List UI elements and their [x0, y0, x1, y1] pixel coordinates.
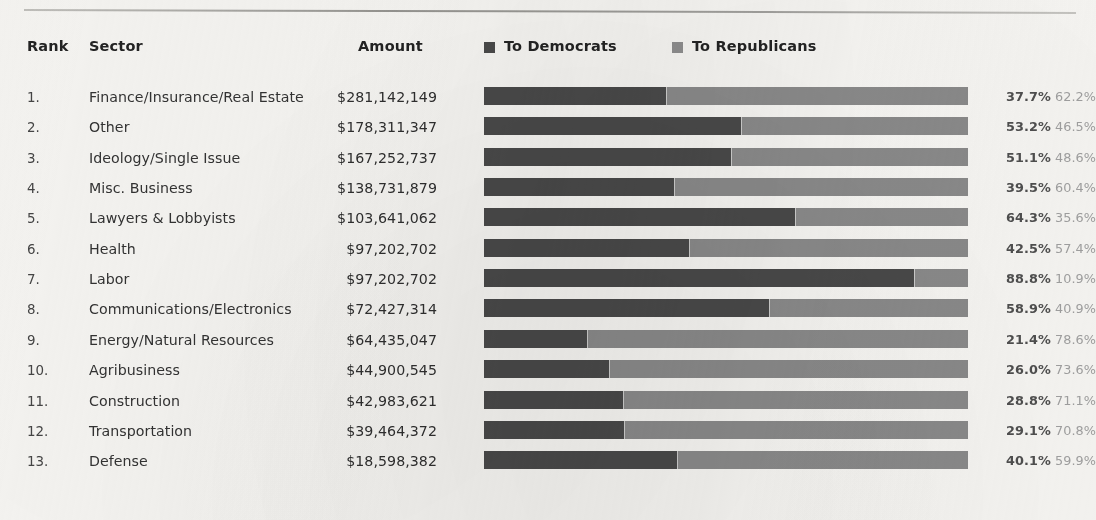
percent-republicans: 78.6%: [1055, 332, 1096, 347]
percent-democrats: 40.1%: [1006, 453, 1051, 468]
percent-democrats: 42.5%: [1006, 241, 1051, 256]
bar-segment-democrats: [484, 148, 732, 166]
bar-segment-democrats: [484, 178, 675, 196]
cell-amount: $44,900,545: [282, 362, 437, 378]
percent-republicans: 46.5%: [1055, 119, 1096, 134]
bar-segment-democrats: [484, 299, 770, 317]
stacked-bar: [484, 117, 968, 135]
percent-labels: 39.5%60.4%: [1006, 180, 1096, 195]
table-row: 4.Misc. Business$138,731,87939.5%60.4%: [0, 177, 1096, 203]
stacked-bar: [484, 391, 968, 409]
percent-republicans: 57.4%: [1055, 241, 1096, 256]
bar-segment-republicans: [625, 421, 968, 439]
cell-sector: Lawyers & Lobbyists: [89, 210, 236, 226]
cell-rank: 1.: [27, 90, 40, 105]
cell-sector: Other: [89, 119, 130, 135]
cell-rank: 10.: [27, 363, 48, 378]
cell-rank: 7.: [27, 272, 40, 287]
bar-segment-democrats: [484, 208, 796, 226]
cell-sector: Labor: [89, 271, 129, 287]
cell-rank: 8.: [27, 302, 40, 317]
cell-amount: $42,983,621: [282, 393, 437, 409]
bar-segment-republicans: [610, 360, 968, 378]
cell-rank: 5.: [27, 211, 40, 226]
cell-amount: $138,731,879: [282, 180, 437, 196]
percent-democrats: 39.5%: [1006, 180, 1051, 195]
table-row: 8.Communications/Electronics$72,427,3145…: [0, 298, 1096, 324]
percent-labels: 53.2%46.5%: [1006, 119, 1096, 134]
bar-segment-democrats: [484, 421, 625, 439]
percent-republicans: 59.9%: [1055, 453, 1096, 468]
percent-labels: 58.9%40.9%: [1006, 301, 1096, 316]
percent-democrats: 26.0%: [1006, 362, 1051, 377]
percent-labels: 21.4%78.6%: [1006, 332, 1096, 347]
percent-democrats: 58.9%: [1006, 301, 1051, 316]
stacked-bar: [484, 421, 968, 439]
cell-sector: Ideology/Single Issue: [89, 150, 240, 166]
cell-amount: $281,142,149: [282, 89, 437, 105]
percent-labels: 28.8%71.1%: [1006, 393, 1096, 408]
percent-democrats: 53.2%: [1006, 119, 1051, 134]
table-row: 2.Other$178,311,34753.2%46.5%: [0, 116, 1096, 142]
cell-sector: Energy/Natural Resources: [89, 332, 274, 348]
bar-segment-democrats: [484, 391, 624, 409]
cell-rank: 3.: [27, 151, 40, 166]
percent-republicans: 62.2%: [1055, 89, 1096, 104]
cell-rank: 11.: [27, 394, 48, 409]
table-row: 7.Labor$97,202,70288.8%10.9%: [0, 268, 1096, 294]
percent-labels: 51.1%48.6%: [1006, 150, 1096, 165]
cell-sector: Communications/Electronics: [89, 301, 292, 317]
percent-republicans: 70.8%: [1055, 423, 1096, 438]
percent-democrats: 64.3%: [1006, 210, 1051, 225]
percent-democrats: 29.1%: [1006, 423, 1051, 438]
bar-segment-republicans: [742, 117, 968, 135]
stacked-bar: [484, 269, 968, 287]
stacked-bar: [484, 330, 968, 348]
table-row: 12.Transportation$39,464,37229.1%70.8%: [0, 420, 1096, 446]
percent-labels: 37.7%62.2%: [1006, 89, 1096, 104]
bar-segment-republicans: [675, 178, 968, 196]
bar-segment-republicans: [690, 239, 968, 257]
bar-segment-republicans: [915, 269, 968, 287]
bar-segment-republicans: [588, 330, 968, 348]
cell-amount: $97,202,702: [282, 271, 437, 287]
percent-labels: 42.5%57.4%: [1006, 241, 1096, 256]
table-row: 3.Ideology/Single Issue$167,252,73751.1%…: [0, 147, 1096, 173]
percent-democrats: 37.7%: [1006, 89, 1051, 104]
percent-labels: 88.8%10.9%: [1006, 271, 1096, 286]
bar-segment-republicans: [678, 451, 968, 469]
percent-republicans: 73.6%: [1055, 362, 1096, 377]
percent-democrats: 88.8%: [1006, 271, 1051, 286]
percent-republicans: 48.6%: [1055, 150, 1096, 165]
percent-democrats: 51.1%: [1006, 150, 1051, 165]
stacked-bar: [484, 299, 968, 317]
cell-sector: Agribusiness: [89, 362, 180, 378]
cell-sector: Finance/Insurance/Real Estate: [89, 89, 304, 105]
table-row: 9.Energy/Natural Resources$64,435,04721.…: [0, 329, 1096, 355]
stacked-bar: [484, 451, 968, 469]
table-row: 6.Health$97,202,70242.5%57.4%: [0, 238, 1096, 264]
stacked-bar: [484, 360, 968, 378]
bar-segment-democrats: [484, 239, 690, 257]
percent-republicans: 40.9%: [1055, 301, 1096, 316]
percent-republicans: 35.6%: [1055, 210, 1096, 225]
cell-sector: Transportation: [89, 423, 192, 439]
stacked-bar: [484, 87, 968, 105]
table-row: 11.Construction$42,983,62128.8%71.1%: [0, 390, 1096, 416]
cell-sector: Misc. Business: [89, 180, 193, 196]
cell-amount: $64,435,047: [282, 332, 437, 348]
percent-democrats: 21.4%: [1006, 332, 1051, 347]
cell-amount: $97,202,702: [282, 241, 437, 257]
cell-sector: Health: [89, 241, 136, 257]
bar-segment-democrats: [484, 117, 742, 135]
cell-sector: Defense: [89, 453, 148, 469]
stacked-bar: [484, 148, 968, 166]
percent-democrats: 28.8%: [1006, 393, 1051, 408]
percent-republicans: 10.9%: [1055, 271, 1096, 286]
bar-segment-democrats: [484, 269, 915, 287]
cell-rank: 2.: [27, 120, 40, 135]
cell-sector: Construction: [89, 393, 180, 409]
percent-labels: 40.1%59.9%: [1006, 453, 1096, 468]
cell-rank: 4.: [27, 181, 40, 196]
percent-republicans: 71.1%: [1055, 393, 1096, 408]
